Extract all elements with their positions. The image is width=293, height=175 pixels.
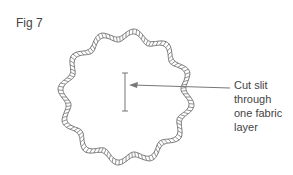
arrow-icon <box>129 82 230 88</box>
scalloped-edge <box>58 29 194 165</box>
callout-text: Cut slit through one fabric layer <box>234 78 293 134</box>
callout-line-2: one fabric layer <box>234 106 293 134</box>
slit-mark <box>122 73 128 111</box>
callout-line-1: Cut slit through <box>234 78 293 106</box>
